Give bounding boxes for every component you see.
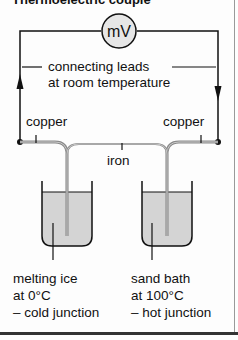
leads-label-line1: connecting leads <box>48 59 149 74</box>
copper-right-label: copper <box>163 114 204 129</box>
millivoltmeter: mV <box>102 14 136 48</box>
arrow-down-icon <box>215 86 222 101</box>
cold-junction-line1: melting ice <box>13 271 78 286</box>
hot-junction-line2: at 100°C <box>131 288 184 303</box>
frame-edge-right <box>234 0 235 332</box>
leads-label-line2: at room temperature <box>48 75 170 90</box>
iron-label: iron <box>107 153 130 168</box>
meter-label: mV <box>107 23 131 40</box>
frame-edge-bottom <box>0 332 238 335</box>
hot-junction-line3: – hot junction <box>131 305 211 320</box>
cold-junction-line2: at 0°C <box>13 288 51 303</box>
cold-junction-line3: – cold junction <box>13 305 99 320</box>
copper-left-label: copper <box>26 114 67 129</box>
arrow-up-icon <box>17 74 24 89</box>
hot-junction-line1: sand bath <box>131 271 190 286</box>
diagram-frame: Thermoelectric couple mV <box>0 0 238 340</box>
